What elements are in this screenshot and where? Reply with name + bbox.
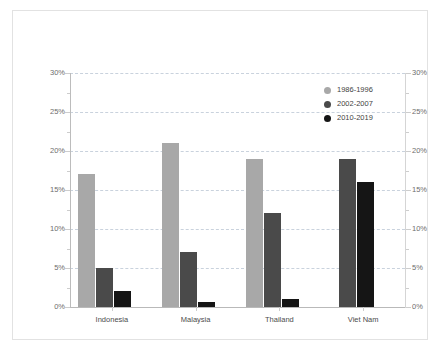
y-axis-right-tick-label: 0% [412, 303, 423, 311]
y-axis-right-tick-mark [406, 73, 411, 74]
y-axis-left-tick-label: 20% [50, 147, 65, 155]
bar[interactable] [96, 268, 113, 307]
y-axis-right-tick-mark [406, 151, 411, 152]
x-axis-tick-mark [196, 307, 197, 311]
bar-group [162, 73, 215, 307]
y-axis-right-tick-label: 10% [412, 225, 427, 233]
legend-item-label: 2010-2019 [337, 114, 373, 122]
y-axis-left-tick-label: 5% [54, 264, 65, 272]
x-axis-category-label: Malaysia [154, 316, 238, 324]
y-axis-left-tick-label: 25% [50, 108, 65, 116]
y-axis-left-tick-mark [65, 307, 70, 308]
x-axis-category-label: Thailand [238, 316, 322, 324]
x-axis-category-label: Viet Nam [321, 316, 405, 324]
legend-item-label: 2002-2007 [337, 100, 373, 108]
bar[interactable] [339, 159, 356, 307]
bar-group [246, 73, 299, 307]
y-axis-right-tick-mark [406, 112, 411, 113]
y-axis-left-tick-mark [65, 73, 70, 74]
y-axis-right-tick-mark [406, 132, 409, 133]
gridline [70, 307, 405, 308]
y-axis-left-tick-mark [65, 151, 70, 152]
y-axis-right-tick-mark [406, 288, 409, 289]
bar[interactable] [282, 299, 299, 307]
x-axis-tick-mark [279, 307, 280, 311]
y-axis-right-labels: 0%5%10%15%20%25%30% [412, 73, 442, 307]
x-axis-tick-mark [363, 307, 364, 311]
bar[interactable] [162, 143, 179, 307]
y-axis-right-tick-label: 20% [412, 147, 427, 155]
y-axis-right-tick-mark [406, 229, 411, 230]
legend-swatch-icon [324, 87, 331, 94]
y-axis-left-tick-label: 15% [50, 186, 65, 194]
y-axis-left-tick-label: 10% [50, 225, 65, 233]
y-axis-right-tick-mark [406, 307, 411, 308]
y-axis-left-tick-mark [67, 171, 70, 172]
legend-item[interactable]: 2002-2007 [324, 98, 373, 110]
y-axis-right-tick-label: 15% [412, 186, 427, 194]
y-axis-left-tick-mark [67, 249, 70, 250]
y-axis-right-tick-label: 5% [412, 264, 423, 272]
y-axis-right-tick-label: 25% [412, 108, 427, 116]
y-axis-left-tick-mark [65, 190, 70, 191]
y-axis-left-tick-label: 30% [50, 69, 65, 77]
x-axis-category-label: Indonesia [70, 316, 154, 324]
y-axis-left-tick-mark [65, 112, 70, 113]
bar-group [78, 73, 131, 307]
y-axis-left-tick-mark [65, 229, 70, 230]
y-axis-right-tick-mark [406, 268, 411, 269]
bar[interactable] [264, 213, 281, 307]
y-axis-right-tick-mark [406, 171, 409, 172]
y-axis-left-spine [70, 73, 71, 308]
y-axis-right-tick-mark [406, 93, 409, 94]
bar[interactable] [246, 159, 263, 307]
y-axis-right-tick-label: 30% [412, 69, 427, 77]
legend-item[interactable]: 1986-1996 [324, 84, 373, 96]
y-axis-right-tick-mark [406, 190, 411, 191]
y-axis-left-tick-mark [67, 210, 70, 211]
chart-legend: 1986-1996 2002-2007 2010-2019 [324, 84, 373, 126]
y-axis-left-tick-mark [67, 93, 70, 94]
y-axis-left-tick-mark [67, 132, 70, 133]
y-axis-left-tick-label: 0% [54, 303, 65, 311]
legend-swatch-icon [324, 115, 331, 122]
x-axis-tick-mark [112, 307, 113, 311]
y-axis-right-tick-mark [406, 249, 409, 250]
bar[interactable] [357, 182, 374, 307]
legend-item-label: 1986-1996 [337, 86, 373, 94]
y-axis-left-tick-mark [65, 268, 70, 269]
y-axis-left-labels: 0%5%10%15%20%25%30% [37, 73, 65, 307]
legend-swatch-icon [324, 101, 331, 108]
y-axis-right-tick-mark [406, 210, 409, 211]
bar[interactable] [114, 291, 131, 307]
chart-figure-frame: 0%5%10%15%20%25%30% 0%5%10%15%20%25%30% … [12, 10, 428, 340]
bar[interactable] [198, 302, 215, 307]
bar[interactable] [78, 174, 95, 307]
bar[interactable] [180, 252, 197, 307]
legend-item[interactable]: 2010-2019 [324, 112, 373, 124]
y-axis-left-tick-mark [67, 288, 70, 289]
